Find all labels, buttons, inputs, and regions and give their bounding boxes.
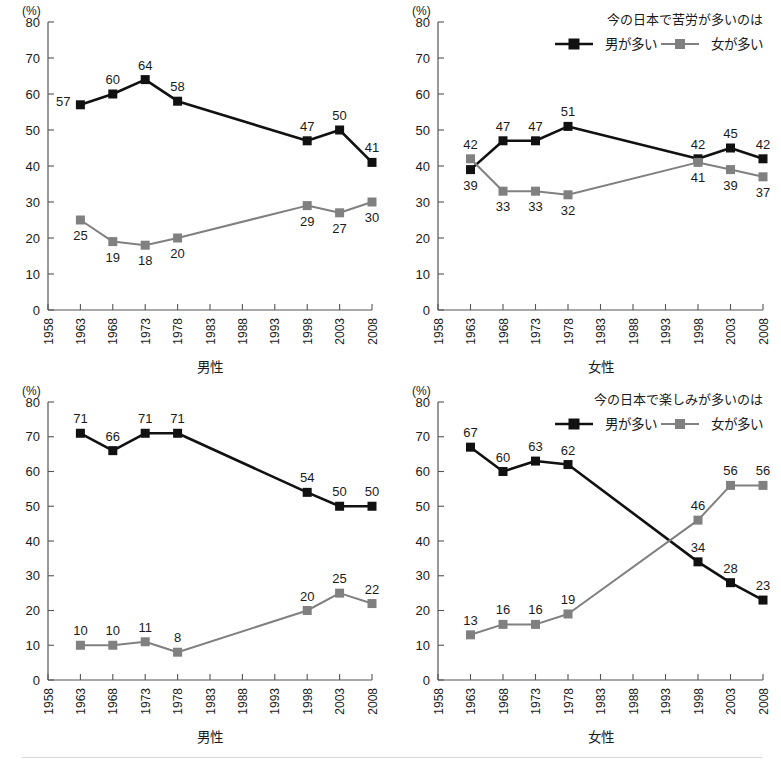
data-point-label: 71 [138, 411, 152, 426]
data-point-label: 8 [174, 630, 181, 645]
data-point-marker [173, 429, 182, 438]
data-point-marker [108, 641, 117, 650]
data-point-marker [466, 443, 475, 452]
series-line-male [80, 433, 372, 506]
data-point-label: 51 [561, 104, 575, 119]
data-point-marker [726, 578, 735, 587]
y-axis-tick-label: 30 [26, 568, 40, 583]
data-point-label: 50 [332, 484, 346, 499]
y-axis-tick-label: 60 [416, 87, 430, 102]
data-point-label: 39 [463, 178, 477, 193]
data-point-marker [531, 620, 540, 629]
x-axis-tick-label: 2008 [366, 318, 380, 345]
x-axis-tick-label: 1973 [529, 688, 543, 715]
chart-panel-top-left: (%)0102030405060708019581963196819731978… [0, 0, 390, 380]
data-point-label: 28 [723, 561, 737, 576]
x-axis-tick-label: 1993 [268, 318, 282, 345]
y-axis-tick-label: 70 [416, 51, 430, 66]
data-point-marker [303, 201, 312, 210]
y-axis-tick-label: 60 [416, 464, 430, 479]
data-point-label: 13 [463, 613, 477, 628]
data-point-marker [726, 165, 735, 174]
data-point-label: 33 [496, 199, 510, 214]
x-axis-tick-label: 1963 [74, 688, 88, 715]
data-point-label: 20 [170, 246, 184, 261]
data-point-label: 10 [106, 623, 120, 638]
data-point-marker [76, 641, 85, 650]
data-point-label: 27 [332, 221, 346, 236]
legend-label-female: 女が多い [711, 36, 763, 52]
data-point-label: 19 [106, 250, 120, 265]
y-axis-tick-label: 10 [416, 267, 430, 282]
y-axis-tick-label: 80 [416, 15, 430, 30]
data-point-label: 47 [528, 119, 542, 134]
x-axis-title: 男性 [197, 730, 223, 745]
x-axis-tick-label: 2003 [724, 318, 738, 345]
data-point-marker [335, 126, 344, 135]
data-point-label: 46 [691, 498, 705, 513]
legend-marker-male [569, 419, 580, 430]
x-axis-tick-label: 1988 [627, 318, 641, 345]
y-axis-tick-label: 20 [416, 603, 430, 618]
x-axis-tick-label: 1993 [659, 688, 673, 715]
data-point-label: 19 [561, 592, 575, 607]
y-axis-tick-label: 30 [26, 195, 40, 210]
y-axis-tick-label: 70 [26, 51, 40, 66]
data-point-label: 54 [300, 470, 314, 485]
y-axis-tick-label: 40 [26, 159, 40, 174]
x-axis-tick-label: 1998 [692, 688, 706, 715]
data-point-marker [759, 481, 768, 490]
data-point-marker [531, 187, 540, 196]
data-point-marker [368, 198, 377, 207]
x-axis-tick-label: 1963 [464, 688, 478, 715]
data-point-marker [108, 90, 117, 99]
data-point-label: 25 [73, 228, 87, 243]
data-point-marker [499, 467, 508, 476]
x-axis-tick-label: 1998 [692, 318, 706, 345]
data-point-label: 63 [528, 439, 542, 454]
data-point-label: 30 [365, 210, 379, 225]
x-axis-tick-label: 1998 [301, 688, 315, 715]
x-axis-tick-label: 1983 [594, 318, 608, 345]
x-axis-tick-label: 1983 [594, 688, 608, 715]
data-point-marker [335, 208, 344, 217]
data-point-label: 11 [138, 620, 152, 635]
x-axis-tick-label: 1988 [236, 688, 250, 715]
y-axis-tick-label: 30 [416, 568, 430, 583]
y-axis-tick-label: 20 [416, 231, 430, 246]
data-point-marker [173, 97, 182, 106]
data-point-label: 45 [723, 126, 737, 141]
data-point-marker [173, 648, 182, 657]
data-point-label: 41 [691, 170, 705, 185]
data-point-marker [303, 136, 312, 145]
x-axis-tick-label: 1958 [432, 318, 446, 345]
x-axis-tick-label: 1968 [106, 318, 120, 345]
data-point-marker [76, 100, 85, 109]
data-point-label: 23 [756, 578, 770, 593]
y-axis-tick-label: 80 [26, 15, 40, 30]
data-point-label: 60 [106, 72, 120, 87]
data-point-marker [108, 446, 117, 455]
data-point-marker [499, 620, 508, 629]
data-point-marker [108, 237, 117, 246]
x-axis-tick-label: 2003 [724, 688, 738, 715]
data-point-label: 56 [756, 463, 770, 478]
data-point-label: 42 [691, 137, 705, 152]
x-axis-tick-label: 1968 [497, 688, 511, 715]
data-point-marker [499, 136, 508, 145]
data-point-marker [466, 165, 475, 174]
x-axis-tick-label: 1988 [627, 688, 641, 715]
legend-label-male: 男が多い [605, 36, 657, 52]
data-point-marker [141, 429, 150, 438]
data-point-marker [141, 75, 150, 84]
x-axis-tick-label: 1958 [432, 688, 446, 715]
x-axis-tick-label: 1983 [204, 688, 218, 715]
x-axis-tick-label: 1998 [301, 318, 315, 345]
data-point-marker [726, 144, 735, 153]
data-point-label: 10 [73, 623, 87, 638]
data-point-marker [76, 216, 85, 225]
line-chart-enjoyment-men: (%)0102030405060708019581963196819731978… [0, 380, 390, 750]
series-line-female [80, 593, 372, 652]
line-chart-hardship-women: (%)0102030405060708019581963196819731978… [390, 0, 781, 380]
x-axis-tick-label: 1978 [562, 318, 576, 345]
